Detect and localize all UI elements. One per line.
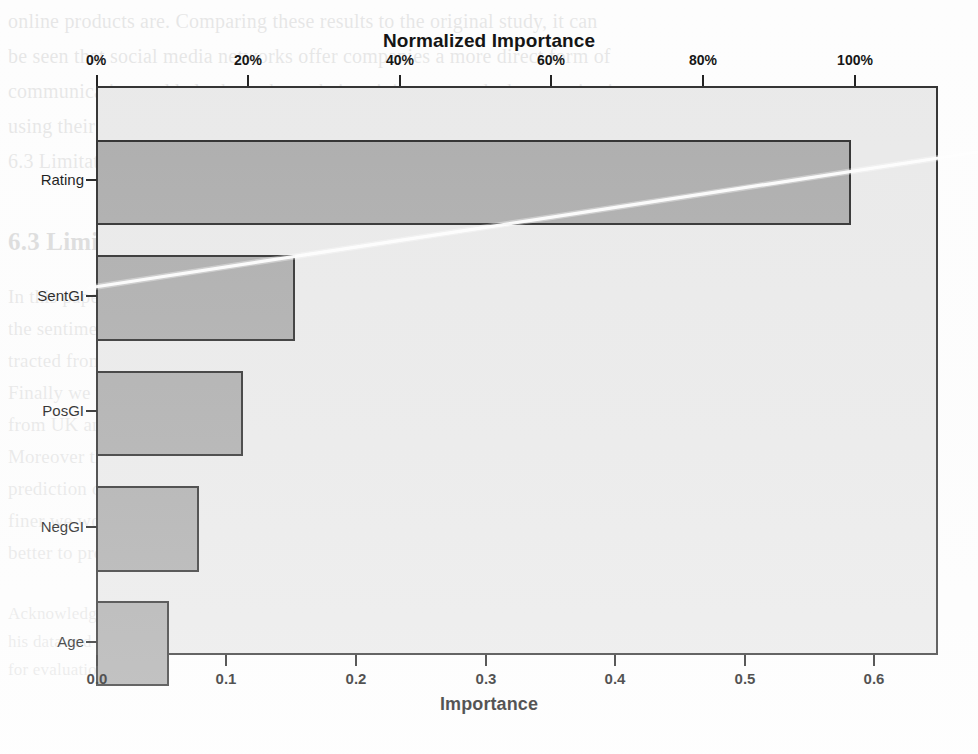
top-axis-tick-mark [399, 75, 401, 86]
top-axis-tick-label-20: 20% [234, 52, 262, 68]
y-axis-tick-mark [86, 295, 97, 297]
x-axis-tick-mark [355, 655, 357, 666]
chart-title: Normalized Importance [0, 30, 978, 52]
bar-posgi[interactable] [96, 371, 243, 456]
bar-chart-figure: Normalized Importance 0% 20% 40% 60% 80%… [0, 0, 978, 754]
top-axis-tick-mark [96, 75, 98, 86]
y-axis-tick-mark [86, 526, 97, 528]
x-axis-tick-label-6: 0.6 [864, 670, 885, 687]
x-axis-tick-mark [744, 655, 746, 666]
x-axis-tick-label-0: 0.0 [87, 670, 108, 687]
top-axis-tick-mark [550, 75, 552, 86]
y-axis-tick-mark [86, 410, 97, 412]
y-axis-label-sentgi: SentGI [0, 287, 84, 304]
x-axis-tick-mark [614, 655, 616, 666]
top-axis-tick-mark [247, 75, 249, 86]
x-axis-tick-label-4: 0.4 [605, 670, 626, 687]
y-axis-label-posgi: PosGI [0, 402, 84, 419]
x-axis-title: Importance [0, 694, 978, 715]
bar-neggi[interactable] [96, 486, 199, 572]
x-axis-tick-mark [485, 655, 487, 666]
y-axis-label-rating: Rating [0, 171, 84, 188]
top-axis-tick-label-40: 40% [386, 52, 414, 68]
top-axis-tick-label-0: 0% [86, 52, 106, 68]
y-axis-tick-mark [86, 179, 97, 181]
x-axis-tick-mark [225, 655, 227, 666]
top-axis-tick-mark [702, 75, 704, 86]
y-axis-tick-mark [86, 641, 97, 643]
x-axis-tick-mark [873, 655, 875, 666]
top-axis-tick-label-100: 100% [837, 52, 873, 68]
top-axis-tick-label-80: 80% [689, 52, 717, 68]
bar-sentgi[interactable] [96, 255, 295, 341]
x-axis-tick-label-1: 0.1 [216, 670, 237, 687]
top-axis-tick-mark [854, 75, 856, 86]
x-axis-tick-label-2: 0.2 [346, 670, 367, 687]
x-axis-tick-mark [96, 655, 98, 666]
bar-rating[interactable] [96, 140, 851, 225]
x-axis-tick-label-5: 0.5 [735, 670, 756, 687]
y-axis-label-neggi: NegGI [0, 518, 84, 535]
y-axis-label-age: Age [0, 633, 84, 650]
plot-area [96, 86, 938, 655]
top-axis-tick-label-60: 60% [537, 52, 565, 68]
x-axis-tick-label-3: 0.3 [476, 670, 497, 687]
